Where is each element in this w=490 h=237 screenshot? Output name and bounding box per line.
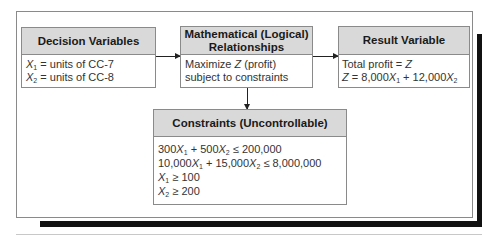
constraint-2: 10,000X1 + 15,000X2 ≤ 8,000,000 bbox=[158, 156, 346, 170]
result-variable-body: Total profit = Z Z = 8,000X1 + 12,000X2 bbox=[339, 55, 469, 84]
constraints-title: Constraints (Uncontrollable) bbox=[172, 117, 327, 130]
constraint-4: X2 ≥ 200 bbox=[158, 184, 346, 198]
constraints-header: Constraints (Uncontrollable) bbox=[154, 110, 346, 137]
constraint-3: X1 ≥ 100 bbox=[158, 170, 346, 184]
decision-variable-x1: X1 = units of CC-7 bbox=[26, 58, 155, 71]
total-profit-line: Total profit = Z bbox=[342, 58, 469, 71]
decision-variables-body: X1 = units of CC-7 X2 = units of CC-8 bbox=[22, 55, 155, 84]
relationships-title-line2: Relationships bbox=[209, 41, 284, 54]
relationships-header: Mathematical (Logical) Relationships bbox=[181, 27, 312, 55]
frame-shadow-bottom bbox=[40, 221, 482, 227]
result-variable-header: Result Variable bbox=[339, 27, 469, 55]
relationships-box: Mathematical (Logical) Relationships Max… bbox=[180, 26, 313, 88]
arrow-decision-to-relationships bbox=[156, 56, 180, 57]
frame-shadow-right bbox=[477, 34, 482, 227]
decision-variables-title: Decision Variables bbox=[38, 35, 140, 48]
decision-variable-x2: X2 = units of CC-8 bbox=[26, 71, 155, 84]
arrow-relationships-to-constraints bbox=[247, 88, 248, 109]
subject-to-line: subject to constraints bbox=[185, 71, 312, 84]
relationships-body: Maximize Z (profit) subject to constrain… bbox=[181, 55, 312, 84]
decision-variables-header: Decision Variables bbox=[22, 28, 155, 55]
bottom-rule bbox=[16, 234, 482, 235]
result-variable-title: Result Variable bbox=[363, 34, 445, 47]
arrow-relationships-to-result bbox=[313, 56, 338, 57]
result-variable-box: Result Variable Total profit = Z Z = 8,0… bbox=[338, 26, 470, 88]
constraint-1: 300X1 + 500X2 ≤ 200,000 bbox=[158, 142, 346, 156]
constraints-body: 300X1 + 500X2 ≤ 200,000 10,000X1 + 15,00… bbox=[154, 137, 346, 198]
decision-variables-box: Decision Variables X1 = units of CC-7 X2… bbox=[21, 27, 156, 88]
objective-line: Maximize Z (profit) bbox=[185, 58, 312, 71]
profit-equation-line: Z = 8,000X1 + 12,000X2 bbox=[342, 71, 469, 84]
constraints-box: Constraints (Uncontrollable) 300X1 + 500… bbox=[153, 109, 347, 205]
relationships-title-line1: Mathematical (Logical) bbox=[185, 28, 309, 41]
